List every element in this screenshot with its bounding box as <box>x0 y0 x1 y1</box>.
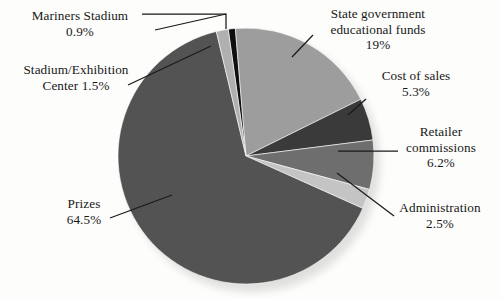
slice-label-prizes: Prizes 64.5% <box>36 196 132 227</box>
slice-label-retailer-commissions: Retailer commissions 6.2% <box>386 124 496 171</box>
pie-slices-group <box>118 28 374 284</box>
slice-label-state-government: State government educational funds 19% <box>303 6 453 53</box>
slice-label-cost-of-sales: Cost of sales 5.3% <box>357 68 475 99</box>
leader-line-mariners-stadium-tick <box>155 14 226 30</box>
slice-label-mariners-stadium: Mariners Stadium 0.9% <box>10 8 150 39</box>
slice-label-stadium-exhibition-center: Stadium/Exhibition Center 1.5% <box>2 62 150 93</box>
pie-chart-figure: Mariners Stadium 0.9% Stadium/Exhibition… <box>0 0 501 299</box>
slice-label-administration: Administration 2.5% <box>382 200 498 231</box>
